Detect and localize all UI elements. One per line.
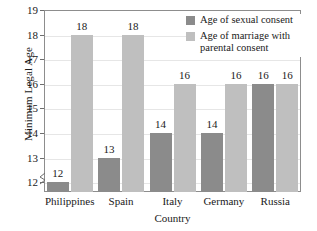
chart-legend: Age of sexual consentAge of marriage wit… bbox=[186, 14, 312, 57]
y-tick-label: 14 bbox=[16, 128, 38, 139]
bar-value-label: 16 bbox=[168, 70, 202, 81]
legend-item: Age of marriage with parental consent bbox=[186, 30, 312, 54]
bar bbox=[98, 158, 120, 192]
bar bbox=[174, 84, 196, 192]
bar-value-label: 12 bbox=[41, 168, 75, 179]
legend-color-swatch bbox=[186, 32, 195, 41]
bar bbox=[47, 182, 69, 192]
y-tick-mark bbox=[40, 35, 44, 36]
y-tick-label: 16 bbox=[16, 79, 38, 90]
y-tick-label: 17 bbox=[16, 54, 38, 65]
bar bbox=[252, 84, 274, 192]
legend-item: Age of sexual consent bbox=[186, 14, 312, 26]
bar bbox=[71, 35, 93, 192]
y-tick-label: 13 bbox=[16, 153, 38, 164]
bar bbox=[225, 84, 247, 192]
y-tick-mark bbox=[40, 10, 44, 11]
bar-value-label: 18 bbox=[65, 21, 99, 32]
bar-value-label: 14 bbox=[195, 119, 229, 130]
y-tick-label: 12 bbox=[16, 177, 38, 188]
bar bbox=[150, 133, 172, 192]
x-axis-title: Country bbox=[44, 212, 301, 224]
bar-value-label: 13 bbox=[92, 144, 126, 155]
legend-label: Age of marriage with parental consent bbox=[200, 30, 312, 54]
bar-value-label: 18 bbox=[116, 21, 150, 32]
bar bbox=[276, 84, 298, 192]
y-tick-label: 19 bbox=[16, 5, 38, 16]
legend-label: Age of sexual consent bbox=[200, 14, 293, 26]
y-tick-label: 15 bbox=[16, 103, 38, 114]
y-axis-title: Minimum Legal Age bbox=[22, 19, 34, 169]
y-tick-mark bbox=[40, 158, 44, 159]
bar bbox=[201, 133, 223, 192]
bar-value-label: 14 bbox=[144, 119, 178, 130]
bar-value-label: 16 bbox=[270, 70, 304, 81]
y-tick-mark bbox=[40, 133, 44, 134]
bar-chart: Minimum Legal Age 1213141516171819 12181… bbox=[0, 0, 317, 231]
legend-color-swatch bbox=[186, 16, 195, 25]
y-tick-mark bbox=[40, 108, 44, 109]
x-axis-label: Russia bbox=[240, 195, 311, 207]
y-tick-label: 18 bbox=[16, 30, 38, 41]
bar bbox=[122, 35, 144, 192]
y-tick-mark bbox=[40, 84, 44, 85]
y-tick-mark bbox=[40, 59, 44, 60]
